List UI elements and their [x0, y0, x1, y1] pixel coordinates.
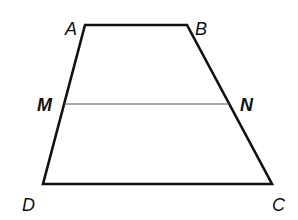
diagram-canvas: A B M N D C [0, 0, 298, 220]
label-M: M [37, 95, 53, 115]
trapezoid-diagram: A B M N D C [0, 0, 298, 220]
label-N: N [240, 95, 254, 115]
label-B: B [195, 19, 207, 39]
label-A: A [64, 19, 77, 39]
label-C: C [272, 195, 286, 215]
label-D: D [22, 195, 35, 215]
